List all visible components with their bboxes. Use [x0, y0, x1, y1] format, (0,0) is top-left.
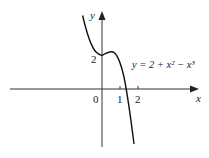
y-tick-label-2: 2 — [91, 53, 97, 65]
origin-label: 0 — [93, 93, 99, 105]
y-axis-label: y — [89, 9, 95, 21]
x-axis-label: x — [195, 92, 201, 104]
equation-label: y = 2 + x² − x³ — [131, 59, 195, 70]
x-tick-label-2: 2 — [135, 93, 141, 105]
graph: y x 0 1 2 2 y = 2 + x² − x³ — [0, 0, 209, 158]
y-axis-arrow-icon — [99, 11, 106, 20]
cubic-curve — [83, 16, 134, 145]
x-tick-label-1: 1 — [117, 93, 123, 105]
